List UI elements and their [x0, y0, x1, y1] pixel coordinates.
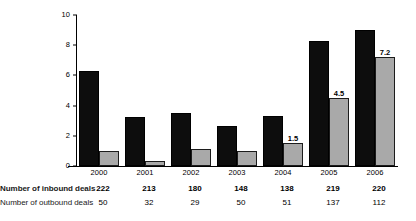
x-axis-line [68, 166, 398, 167]
bar: 4.5 [329, 98, 349, 166]
table-cell: 180 [172, 184, 218, 194]
x-axis-tick-label: 2003 [214, 168, 260, 180]
bar [237, 151, 257, 166]
bar [171, 113, 191, 166]
table-cell: 213 [126, 184, 172, 194]
y-axis-tick-label: 10 [40, 11, 76, 19]
bar [145, 161, 165, 166]
bar-group [122, 15, 168, 166]
bar [125, 117, 145, 166]
table-row-label: Number of outbound deals [0, 198, 76, 208]
bar-chart-figure: 0246810 1.54.57.2 2000200120022003200420… [0, 0, 416, 221]
bar [99, 151, 119, 166]
bar-groups: 1.54.57.2 [76, 15, 398, 166]
bar [263, 116, 283, 166]
x-axis-tick-label: 2004 [260, 168, 306, 180]
bar-group: 1.5 [260, 15, 306, 166]
table-cell: 219 [310, 184, 356, 194]
bar [309, 41, 329, 166]
x-axis-tick-label: 2001 [122, 168, 168, 180]
table-cell: 112 [356, 198, 402, 208]
x-axis-tick-label: 2005 [306, 168, 352, 180]
bar [355, 30, 375, 166]
table-row: Number of inbound deals22221318014813821… [0, 182, 416, 196]
data-table: Number of inbound deals22221318014813821… [0, 182, 416, 210]
table-row-label: Number of inbound deals [0, 184, 76, 194]
table-cell: 137 [310, 198, 356, 208]
y-axis-tick-label: 2 [40, 132, 76, 140]
bar-value-label: 1.5 [288, 135, 299, 143]
bar [79, 71, 99, 166]
y-axis-tick-label: 8 [40, 41, 76, 49]
bar-value-label: 4.5 [334, 90, 345, 98]
bar: 7.2 [375, 57, 395, 166]
bar-group: 4.5 [306, 15, 352, 166]
y-axis-tick-label: 6 [40, 72, 76, 80]
table-cell: 148 [218, 184, 264, 194]
x-axis-tick-label: 2006 [352, 168, 398, 180]
table-cell: 138 [264, 184, 310, 194]
table-cell: 50 [218, 198, 264, 208]
table-cell: 29 [172, 198, 218, 208]
bar [191, 149, 211, 166]
bar [217, 126, 237, 166]
bar-value-label: 7.2 [380, 49, 391, 57]
x-axis-tick-labels: 2000200120022003200420052006 [76, 168, 398, 180]
bar-group [168, 15, 214, 166]
plot-area: 0246810 1.54.57.2 [76, 15, 398, 166]
bar: 1.5 [283, 143, 303, 166]
bar-group: 7.2 [352, 15, 398, 166]
y-axis-tick-label: 4 [40, 102, 76, 110]
table-row-values: 5032295051137112 [80, 198, 402, 208]
table-row: Number of outbound deals5032295051137112 [0, 196, 416, 210]
bar-group [76, 15, 122, 166]
table-cell: 51 [264, 198, 310, 208]
bar-group [214, 15, 260, 166]
table-cell: 32 [126, 198, 172, 208]
table-cell: 50 [80, 198, 126, 208]
x-axis-tick-label: 2002 [168, 168, 214, 180]
table-row-values: 222213180148138219220 [80, 184, 402, 194]
table-cell: 220 [356, 184, 402, 194]
x-axis-tick-label: 2000 [76, 168, 122, 180]
table-cell: 222 [80, 184, 126, 194]
y-axis-tick-label: 0 [40, 162, 76, 170]
